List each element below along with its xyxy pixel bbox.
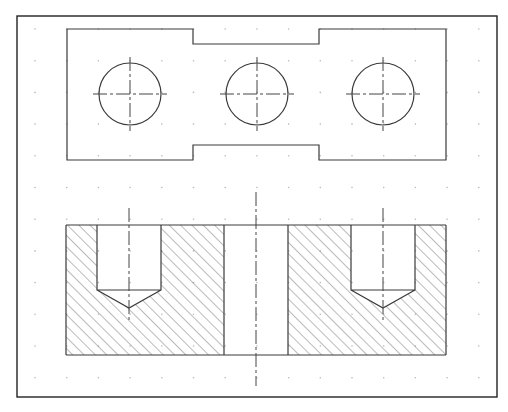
hole-2 [220,57,294,131]
top-view [67,29,446,160]
hole-1 [93,57,167,131]
section-view [66,192,446,386]
hole-3 [346,57,420,131]
cad-drawing-canvas [0,0,508,412]
